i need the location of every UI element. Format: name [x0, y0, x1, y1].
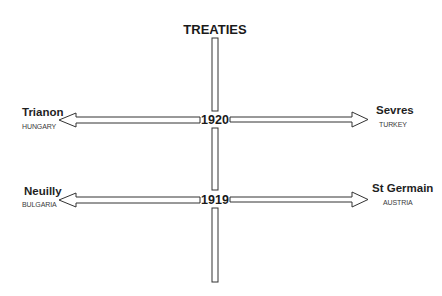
- treaties-diagram: TREATIES 1920 Trianon HUNGARY Sevres TUR…: [0, 0, 442, 296]
- arrow-right-1919: [230, 192, 368, 207]
- country-turkey: TURKEY: [379, 121, 407, 128]
- arrow-left-1920: [59, 113, 200, 127]
- diagram-title: TREATIES: [183, 22, 247, 37]
- timeline-bar-top: [212, 38, 218, 111]
- country-hungary: HUNGARY: [22, 123, 57, 130]
- treaty-name-sevres: Sevres: [376, 104, 414, 116]
- year-label-1920: 1920: [201, 113, 229, 127]
- treaty-name-trianon: Trianon: [22, 106, 64, 118]
- treaty-name-neuilly: Neuilly: [24, 185, 62, 197]
- country-austria: AUSTRIA: [383, 199, 413, 206]
- timeline-bar-middle: [212, 128, 218, 190]
- arrow-right-1920: [230, 112, 368, 127]
- arrow-left-1919: [59, 193, 200, 207]
- year-label-1919: 1919: [201, 193, 229, 207]
- treaty-name-st-germain: St Germain: [372, 182, 433, 194]
- timeline-bar-bottom: [212, 208, 218, 282]
- country-bulgaria: BULGARIA: [22, 201, 57, 208]
